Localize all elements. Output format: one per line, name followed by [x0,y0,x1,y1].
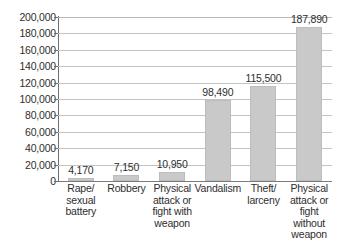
bar-slot: 115,500 [241,17,287,181]
bar [205,100,231,181]
x-axis-category-label: Physicalattack orfight withweapon [146,183,198,229]
y-axis-tick-mark [54,181,58,182]
bar [68,178,94,181]
y-axis-labels: 200,000180,000160,000140,000120,000100,0… [0,0,56,249]
bar-value-label: 187,890 [291,14,328,25]
y-axis-tick-label: 0 [0,176,56,187]
y-axis-tick-label: 140,000 [0,61,56,72]
x-axis-category-line: Robbery [101,183,153,195]
y-axis-tick-mark [54,66,58,67]
x-axis-category-label: Physicalattack orfightwithoutweapon [283,183,335,241]
x-axis-category-label: Theft/larceny [238,183,290,206]
bar-chart: 200,000180,000160,000140,000120,000100,0… [0,0,342,249]
y-axis-tick-mark [54,148,58,149]
x-axis-category-line: weapon [146,218,198,230]
bar [159,172,185,181]
bar-value-label: 98,490 [202,87,233,98]
x-axis-category-label: Robbery [101,183,153,195]
x-axis-category-label: Vandalism [192,183,244,195]
y-axis-tick-label: 100,000 [0,94,56,105]
x-axis-category-line: Theft/ [238,183,290,195]
y-axis-tick-mark [54,165,58,166]
y-axis-tick-label: 40,000 [0,143,56,154]
y-axis-tick-mark [54,115,58,116]
x-axis-category-line: larceny [238,195,290,207]
bar [250,86,276,181]
y-axis-tick-label: 80,000 [0,110,56,121]
y-axis-tick-label: 180,000 [0,28,56,39]
bar-slot: 7,150 [104,17,150,181]
bar [113,175,139,181]
y-axis-tick-mark [54,33,58,34]
y-axis-tick-label: 200,000 [0,12,56,23]
x-axis-category-line: Rape/ [55,183,107,195]
y-axis-tick-mark [54,50,58,51]
bar-slot: 98,490 [195,17,241,181]
y-axis-tick-mark [54,83,58,84]
y-axis-tick-label: 20,000 [0,160,56,171]
bar-value-label: 4,170 [68,165,93,176]
y-axis-tick-label: 120,000 [0,78,56,89]
bar-value-label: 115,500 [246,73,282,84]
bar-slot: 4,170 [58,17,104,181]
bar-value-label: 10,950 [157,159,188,170]
bar-slot: 10,950 [149,17,195,181]
y-axis-tick-mark [54,99,58,100]
x-axis-category-line: weapon [283,229,335,241]
bar [296,27,322,181]
x-axis-category-line: battery [55,206,107,218]
bar-slot: 187,890 [286,17,332,181]
y-axis-tick-label: 60,000 [0,127,56,138]
bars-group: 4,1707,15010,95098,490115,500187,890 [58,17,332,181]
x-axis-category-label: Rape/sexualbattery [55,183,107,218]
x-axis-category-line: Vandalism [192,183,244,195]
bar-value-label: 7,150 [114,162,139,173]
y-axis-tick-mark [54,17,58,18]
x-axis-labels: Rape/sexualbatteryRobberyPhysicalattack … [58,183,342,249]
x-axis-category-line: Physical [283,183,335,195]
y-axis-tick-label: 160,000 [0,45,56,56]
x-axis-category-line: Physical [146,183,198,195]
y-axis-tick-mark [54,132,58,133]
